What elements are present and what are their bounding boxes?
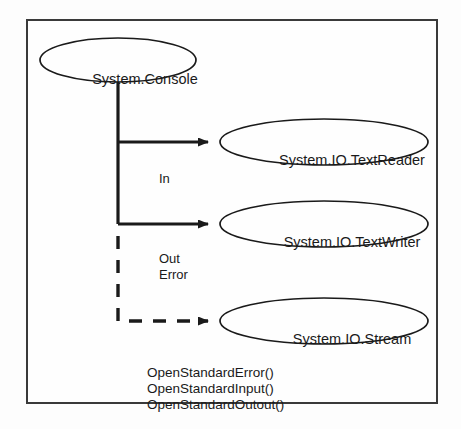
method-list-item: OpenStandardInput() bbox=[147, 381, 274, 396]
node-label-console: System.Console bbox=[81, 71, 209, 87]
method-list-item: OpenStandardError() bbox=[147, 365, 274, 380]
diagram-frame: System.Console System.IO.TextReader Syst… bbox=[26, 19, 438, 404]
edge-label-out: Out bbox=[159, 251, 180, 266]
method-list-item: OpenStandardOutout() bbox=[147, 397, 284, 412]
diagram-page: System.Console System.IO.TextReader Syst… bbox=[0, 0, 461, 429]
node-label-stream: System.IO.Stream bbox=[267, 331, 437, 347]
edge-label-in: In bbox=[159, 171, 170, 186]
node-label-textreader: System.IO.TextReader bbox=[267, 152, 437, 168]
edge-label-error: Error bbox=[159, 267, 188, 282]
node-label-textwriter: System.IO.TextWriter bbox=[267, 234, 437, 250]
